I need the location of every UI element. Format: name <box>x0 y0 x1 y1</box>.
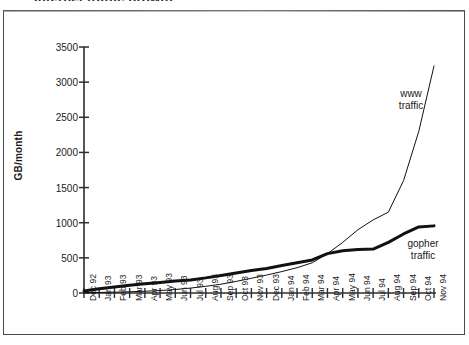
x-axis-tick-label: Aug 94 <box>392 274 402 301</box>
x-axis-tick-label: Feb 93 <box>118 275 128 301</box>
x-axis-tick-label: Oct 94 <box>423 276 433 301</box>
series-annotation-www: www traffic <box>380 88 442 112</box>
x-axis-tick-label: Mar 93 <box>134 275 144 301</box>
x-axis-tick-label: May 94 <box>347 273 357 301</box>
x-axis-tick-label: Sep 93 <box>225 274 235 301</box>
x-axis-tick-label: Jan 94 <box>286 275 296 301</box>
x-axis-tick-label: Nov 94 <box>438 274 448 301</box>
x-axis-tick-label: Jul 93 <box>195 278 205 301</box>
x-axis-tick-label: Apr 93 <box>149 276 159 301</box>
x-axis-tick-label: Dec 93 <box>271 274 281 301</box>
chart-plot-area: GB/month 0500100015002000250030003500 De… <box>0 0 469 345</box>
x-axis-tick-label: May 93 <box>164 273 174 301</box>
x-axis-tick-label: Mar 94 <box>316 275 326 301</box>
x-axis-tick-label: Jun 94 <box>362 275 372 301</box>
x-axis-tick-label: Jul 94 <box>377 278 387 301</box>
x-axis-tick-label: Aug 93 <box>210 274 220 301</box>
x-axis-tick-label: Oct 93 <box>240 276 250 301</box>
figure-container: Internet traffic growth GB/month 0500100… <box>0 0 469 345</box>
series-annotation-gopher: gopher traffic <box>392 238 454 262</box>
series-annotation-gopher-line1: gopher <box>392 238 454 250</box>
x-axis-tick-label: Apr 94 <box>331 276 341 301</box>
axes-group <box>79 47 436 298</box>
series-annotation-www-line2: traffic <box>380 100 442 112</box>
x-axis-tick-label: Jun 93 <box>179 275 189 301</box>
x-axis-tick-label: Feb 94 <box>301 275 311 301</box>
x-axis-tick-label: Jan 93 <box>103 275 113 301</box>
series-annotation-gopher-line2: traffic <box>392 250 454 262</box>
x-axis-tick-label: Sep 94 <box>408 274 418 301</box>
series-annotation-www-line1: www <box>380 88 442 100</box>
x-axis-tick-label: Nov 93 <box>255 274 265 301</box>
x-axis-tick-label: Dec 92 <box>88 274 98 301</box>
